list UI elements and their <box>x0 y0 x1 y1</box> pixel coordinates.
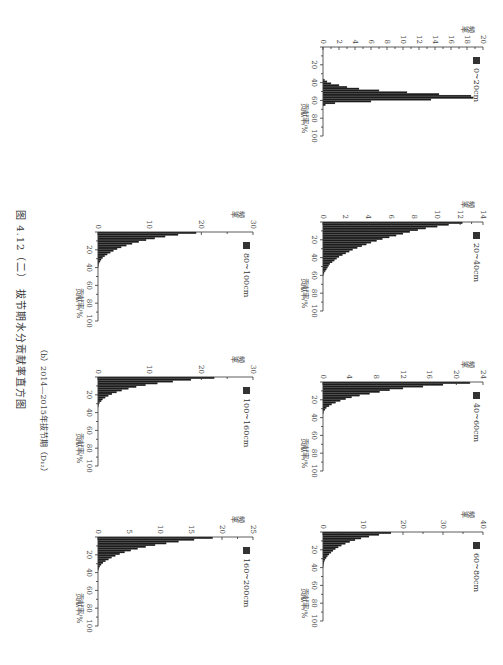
histogram-bar <box>323 387 403 389</box>
y-tick-label: 8 <box>383 40 391 44</box>
histogram-bar <box>323 227 426 229</box>
histogram-bar <box>98 395 108 397</box>
histogram-bar <box>98 391 117 393</box>
histogram-bar <box>98 557 112 559</box>
chart-legend: 60~80cm <box>472 542 481 592</box>
histogram-bar <box>98 382 157 384</box>
y-tick-label: 10 <box>156 525 164 534</box>
histogram-80-100cm: 20406080100贡献率/%0102030频率80~100cm <box>68 210 263 325</box>
histogram-bar <box>98 548 138 550</box>
y-tick-label: 20 <box>479 35 487 44</box>
y-tick-label: 24 <box>479 370 487 379</box>
histogram-bar <box>98 234 178 236</box>
histogram-bar <box>98 253 107 255</box>
histogram-bar <box>323 231 410 233</box>
histogram-bar <box>323 92 407 94</box>
histogram-plot: 20406080100贡献率/%0510152025频率 <box>68 515 263 630</box>
histogram-bar <box>98 397 105 399</box>
x-tick-label: 60 <box>310 96 318 105</box>
y-tick-label: 16 <box>425 370 433 379</box>
histogram-bar <box>98 553 120 555</box>
histogram-bar <box>98 564 101 566</box>
y-axis-label: 频率 <box>460 200 476 209</box>
histogram-bar <box>323 234 396 236</box>
y-axis-label: 频率 <box>460 510 476 519</box>
legend-swatch-icon <box>243 242 250 249</box>
histogram-bar <box>98 239 146 241</box>
histogram-bar <box>98 551 125 553</box>
histogram-bar <box>323 258 337 260</box>
chart-legend: 100~160cm <box>242 387 251 447</box>
histogram-bar <box>98 243 132 245</box>
y-tick-label: 18 <box>463 35 471 44</box>
legend-swatch-icon <box>473 232 480 239</box>
histogram-bar <box>323 90 379 92</box>
x-axis-label: 贡献率/% <box>75 593 85 624</box>
y-tick-label: 20 <box>197 220 205 229</box>
histogram-bar <box>98 237 155 239</box>
histogram-bar <box>323 247 357 249</box>
histogram-bar <box>323 93 439 95</box>
y-tick-label: 2 <box>341 215 349 219</box>
x-tick-label: 40 <box>85 263 93 272</box>
histogram-bar <box>323 544 341 546</box>
x-tick-label: 60 <box>310 271 318 280</box>
y-tick-label: 0 <box>94 225 102 229</box>
histogram-bar <box>323 236 389 238</box>
histogram-bar <box>98 246 121 248</box>
y-tick-label: 20 <box>399 520 407 529</box>
histogram-bar <box>323 249 353 251</box>
y-tick-label: 0 <box>94 370 102 374</box>
histogram-bar <box>98 259 101 261</box>
legend-swatch-icon <box>243 387 250 394</box>
x-tick-label: 40 <box>85 408 93 417</box>
y-axis-label: 频率 <box>230 210 246 219</box>
histogram-bar <box>323 541 350 543</box>
y-axis-label: 频率 <box>460 360 476 369</box>
y-tick-label: 14 <box>431 35 439 44</box>
histogram-bar <box>323 100 371 102</box>
y-axis-label: 频率 <box>460 25 476 34</box>
x-tick-label: 60 <box>310 431 318 440</box>
y-tick-label: 14 <box>479 210 487 219</box>
histogram-bar <box>98 546 146 548</box>
x-tick-label: 40 <box>310 78 318 87</box>
y-axis-label: 频率 <box>230 515 246 524</box>
y-tick-label: 4 <box>351 40 359 45</box>
histogram-bar <box>323 81 327 83</box>
y-tick-label: 0 <box>94 530 102 534</box>
histogram-bar <box>323 86 347 88</box>
histogram-160-200cm: 20406080100贡献率/%0510152025频率160~200cm <box>68 515 263 630</box>
histogram-bar <box>98 241 139 243</box>
y-tick-label: 10 <box>433 210 441 219</box>
chart-legend: 0~20cm <box>472 57 481 102</box>
histogram-100-160cm: 20406080100贡献率/%0102030频率100~160cm <box>68 355 263 470</box>
x-tick-label: 40 <box>85 568 93 577</box>
histogram-60-80cm: 20406080100贡献率/%010203040频率60~80cm <box>293 510 493 625</box>
legend-label: 160~200cm <box>242 558 251 607</box>
x-tick-label: 20 <box>85 550 93 559</box>
x-tick-label: 80 <box>85 444 93 453</box>
histogram-plot: 20406080100贡献率/%0102030频率 <box>68 355 263 470</box>
histogram-bar <box>323 396 352 398</box>
histogram-bar <box>98 541 179 543</box>
histogram-bar <box>323 233 403 235</box>
histogram-bar <box>323 537 361 539</box>
x-axis-label: 贡献率/% <box>300 103 310 134</box>
histogram-bar <box>323 557 326 559</box>
histogram-bar <box>323 546 338 548</box>
legend-label: 100~160cm <box>242 398 251 447</box>
histogram-bar <box>98 255 105 257</box>
x-tick-label: 100 <box>310 464 318 477</box>
x-tick-label: 80 <box>310 599 318 608</box>
x-tick-label: 80 <box>310 114 318 123</box>
x-tick-label: 40 <box>310 413 318 422</box>
y-tick-label: 10 <box>145 220 153 229</box>
histogram-bar <box>98 252 110 254</box>
histogram-bar <box>323 403 332 405</box>
histogram-bar <box>323 256 339 258</box>
histogram-bar <box>98 244 126 246</box>
y-tick-label: 25 <box>249 525 257 534</box>
histogram-0-20cm: 20406080100贡献率/%02468101214161820频率0~20c… <box>293 25 493 140</box>
histogram-bar <box>323 88 359 90</box>
